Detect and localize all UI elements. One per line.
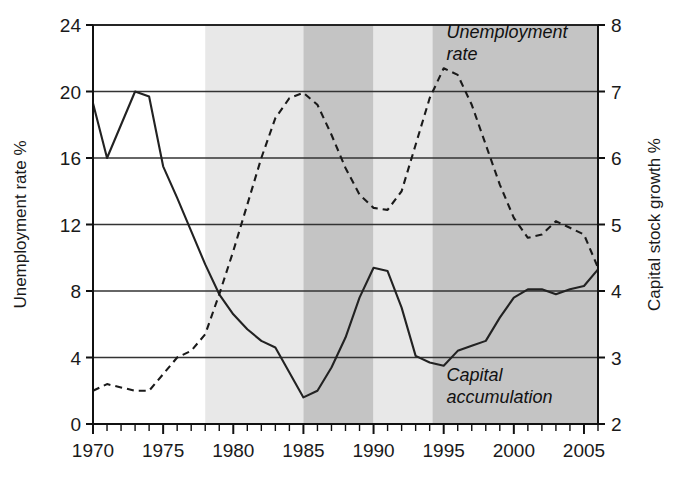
ytick-label-left-16: 16 bbox=[60, 148, 81, 169]
ytick-label-left-4: 4 bbox=[70, 348, 81, 369]
ytick-label-right-6: 6 bbox=[611, 148, 622, 169]
xtick-label-1990: 1990 bbox=[352, 440, 394, 461]
dual-axis-line-chart: 0481216202423456781970197519801985199019… bbox=[0, 0, 682, 484]
xtick-label-1980: 1980 bbox=[212, 440, 254, 461]
ytick-label-right-2: 2 bbox=[611, 414, 622, 435]
ytick-label-left-0: 0 bbox=[70, 414, 81, 435]
ytick-label-left-24: 24 bbox=[60, 15, 82, 36]
y-axis-title-left: Unemployment rate % bbox=[11, 140, 30, 308]
chart-figure: 0481216202423456781970197519801985199019… bbox=[0, 0, 682, 484]
ytick-label-right-8: 8 bbox=[611, 15, 622, 36]
ytick-label-right-4: 4 bbox=[611, 281, 622, 302]
annotation-unemployment-line2: rate bbox=[447, 44, 478, 64]
xtick-label-1975: 1975 bbox=[142, 440, 184, 461]
annotation-capital-line1: Capital bbox=[447, 365, 504, 385]
annotation-capital-line2: accumulation bbox=[447, 387, 553, 407]
ytick-label-right-7: 7 bbox=[611, 82, 622, 103]
xtick-label-2005: 2005 bbox=[563, 440, 605, 461]
xtick-label-2000: 2000 bbox=[493, 440, 535, 461]
xtick-label-1995: 1995 bbox=[423, 440, 465, 461]
y-axis-title-right: Capital stock growth % bbox=[645, 138, 664, 311]
ytick-label-right-5: 5 bbox=[611, 215, 622, 236]
xtick-label-1970: 1970 bbox=[72, 440, 114, 461]
ytick-label-right-3: 3 bbox=[611, 348, 622, 369]
annotation-unemployment-line1: Unemployment bbox=[447, 22, 569, 42]
ytick-label-left-8: 8 bbox=[70, 281, 81, 302]
xtick-label-1985: 1985 bbox=[282, 440, 324, 461]
ytick-label-left-20: 20 bbox=[60, 82, 81, 103]
ytick-label-left-12: 12 bbox=[60, 215, 81, 236]
